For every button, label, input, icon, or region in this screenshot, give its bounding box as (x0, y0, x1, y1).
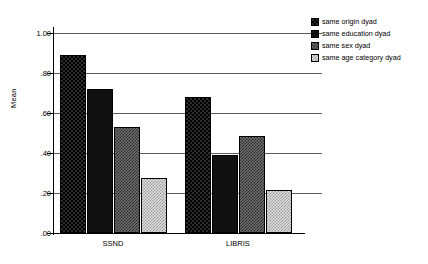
bar-libris-same-sex-dyad (239, 136, 265, 233)
bar-ssnd-same-education-dyad (87, 89, 113, 233)
y-tick-label: .60 (11, 109, 51, 118)
x-axis-line (53, 233, 305, 234)
y-tick-label: .20 (11, 189, 51, 198)
bar-ssnd-same-origin-dyad (60, 55, 86, 233)
legend-swatch-mid-icon (311, 42, 319, 50)
bar-libris-same-education-dyad (212, 155, 238, 233)
legend-label: same age category dyad (322, 53, 401, 62)
legend-swatch-solid-icon (311, 30, 319, 38)
bar-ssnd-same-sex-dyad (114, 127, 140, 233)
x-tick-label-ssnd: SSND (53, 239, 173, 248)
y-axis-tick-labels: 1.00 .80 .60 .40 .20 .00 (0, 0, 51, 264)
legend-swatch-light-icon (311, 54, 319, 62)
legend-swatch-checker-icon (311, 18, 319, 26)
bar-libris-same-age-category-dyad (266, 190, 292, 233)
legend-label: same education dyad (322, 29, 390, 38)
plot-area (53, 33, 303, 233)
bar-chart: Mean 1.00 .80 .60 .40 .20 .00 SSND LIBRI… (0, 0, 428, 264)
y-tick-label: 1.00 (11, 29, 51, 38)
y-tick-label: .00 (11, 229, 51, 238)
y-tick-label: .40 (11, 149, 51, 158)
legend-item-same-age-category-dyad: same age category dyad (311, 52, 427, 63)
legend-label: same sex dyad (322, 41, 370, 50)
legend: same origin dyad same education dyad sam… (311, 16, 427, 64)
legend-label: same origin dyad (322, 17, 377, 26)
x-tick-label-libris: LIBRIS (178, 239, 298, 248)
legend-item-same-origin-dyad: same origin dyad (311, 16, 427, 27)
legend-item-same-sex-dyad: same sex dyad (311, 40, 427, 51)
y-tick-label: .80 (11, 69, 51, 78)
legend-item-same-education-dyad: same education dyad (311, 28, 427, 39)
bar-libris-same-origin-dyad (185, 97, 211, 233)
bar-ssnd-same-age-category-dyad (141, 178, 167, 233)
